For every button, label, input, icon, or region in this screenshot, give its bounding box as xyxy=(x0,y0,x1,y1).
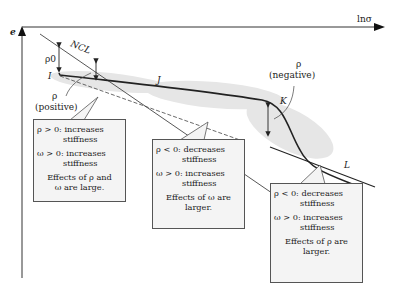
box1-line4: stiffness xyxy=(37,158,122,168)
box2-line6: larger. xyxy=(156,202,241,212)
callout-tail-3 xyxy=(300,165,325,184)
point-K-label: K xyxy=(279,96,288,106)
box1-line1: ρ > 0: increases xyxy=(37,124,122,134)
callout-box-2: ρ < 0: decreases stiffness ω > 0: increa… xyxy=(152,139,245,229)
rho-neg-sub: (negative) xyxy=(269,70,315,80)
box1-line5: Effects of ρ and xyxy=(37,172,122,182)
x-axis-label: lnσ xyxy=(357,14,372,24)
box1-line3: ω > 0: increases xyxy=(37,148,122,158)
box2-line5: Effects of ω are xyxy=(156,192,241,202)
box3-line3: ω > 0: increases xyxy=(274,212,359,222)
callout-box-3: ρ < 0: decreases stiffness ω > 0: increa… xyxy=(270,183,363,283)
box3-line4: stiffness xyxy=(274,222,359,232)
box3-line2: stiffness xyxy=(274,198,359,208)
rho0-label: ρ0 xyxy=(45,54,56,64)
box1-line2: stiffness xyxy=(37,134,122,144)
box1-line6: ω are large. xyxy=(37,182,122,192)
box2-line1: ρ < 0: decreases xyxy=(156,144,241,154)
x-axis-arrow-icon xyxy=(374,23,385,31)
rho-pos-sub: (positive) xyxy=(35,102,78,112)
box3-line6: larger. xyxy=(274,246,359,256)
box2-line2: stiffness xyxy=(156,154,241,164)
box3-line1: ρ < 0: decreases xyxy=(274,188,359,198)
diagram: lnσ e NCL ρ0 I J K L ρ (positive) ρ (neg… xyxy=(0,0,399,293)
box2-line4: stiffness xyxy=(156,178,241,188)
ncl-label: NCL xyxy=(68,38,92,55)
y-axis-label: e xyxy=(10,27,16,37)
rho-pos-label: ρ xyxy=(52,91,57,101)
box2-line3: ω > 0: increases xyxy=(156,168,241,178)
box3-line5: Effects of ρ are xyxy=(274,236,359,246)
callout-box-1: ρ > 0: increases stiffness ω > 0: increa… xyxy=(33,119,126,202)
point-I-label: I xyxy=(47,71,52,81)
point-L-label: L xyxy=(343,160,350,170)
callout-tail-2 xyxy=(180,122,208,140)
rho-neg-label: ρ xyxy=(296,59,301,69)
